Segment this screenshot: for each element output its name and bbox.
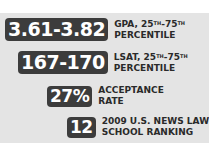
gpa-caption-line1: GPA, 25 — [114, 19, 153, 29]
superscript: TH — [156, 53, 164, 59]
stat-ranking: 12 2009 U.S. NEWS LAW SCHOOL RANKING — [67, 116, 209, 138]
superscript: TH — [177, 20, 185, 26]
lsat-value-badge: 167-170 — [18, 51, 108, 74]
stat-acceptance: 27% ACCEPTANCE RATE — [47, 85, 164, 107]
stat-lsat: 167-170 LSAT, 25TH-75TH PERCENTILE — [18, 51, 188, 74]
superscript: TH — [154, 20, 162, 26]
acceptance-caption-line2: RATE — [98, 96, 164, 107]
lsat-caption-line1: LSAT, 25 — [114, 52, 156, 62]
ranking-caption: 2009 U.S. NEWS LAW SCHOOL RANKING — [102, 116, 209, 138]
gpa-caption: GPA, 25TH-75TH PERCENTILE — [114, 19, 185, 41]
ranking-caption-line2: SCHOOL RANKING — [102, 127, 209, 138]
ranking-value-badge: 12 — [67, 117, 96, 138]
acceptance-caption: ACCEPTANCE RATE — [98, 85, 164, 107]
ranking-caption-line1: 2009 U.S. NEWS LAW — [102, 116, 209, 127]
gpa-caption-mid: -75 — [161, 19, 177, 29]
lsat-caption: LSAT, 25TH-75TH PERCENTILE — [114, 52, 188, 74]
acceptance-caption-line1: ACCEPTANCE — [98, 85, 164, 96]
stat-gpa: 3.61-3.82 GPA, 25TH-75TH PERCENTILE — [5, 18, 185, 41]
lsat-caption-mid: -75 — [164, 52, 180, 62]
gpa-caption-line2: PERCENTILE — [114, 30, 185, 41]
acceptance-value-badge: 27% — [47, 86, 92, 107]
lsat-caption-line2: PERCENTILE — [114, 63, 188, 74]
superscript: TH — [180, 53, 188, 59]
gpa-value-badge: 3.61-3.82 — [5, 18, 108, 41]
